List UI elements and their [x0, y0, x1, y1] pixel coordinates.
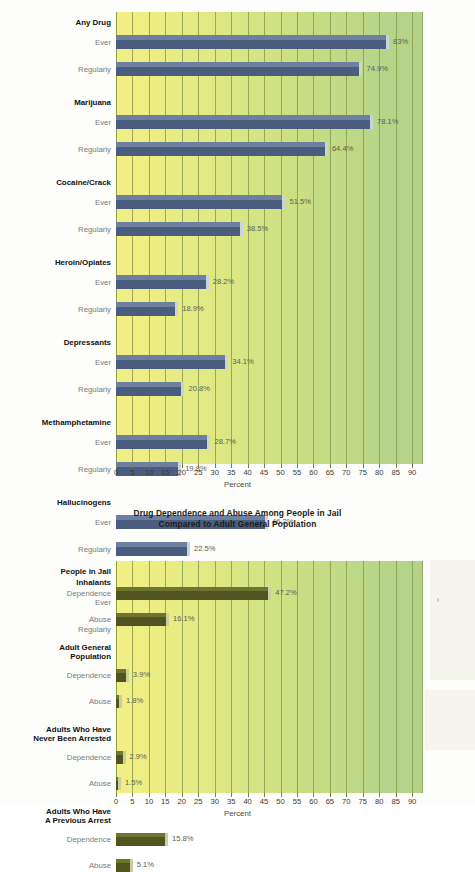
- data-bar: [116, 695, 122, 708]
- bar-value-label: 2.9%: [130, 752, 147, 761]
- bar-tip: [181, 382, 184, 396]
- chart-gridline: [215, 12, 216, 464]
- bar-value-label: 3.9%: [133, 670, 150, 679]
- x-axis-title: Percent: [0, 480, 475, 489]
- axis-tick-label: 35: [227, 797, 235, 806]
- group-label-line: Depressants: [64, 338, 111, 347]
- data-bar: [116, 222, 243, 236]
- bar-value-label: 28.7%: [214, 437, 236, 446]
- chart-gridline: [231, 12, 232, 464]
- axis-tick-label: 0: [114, 797, 118, 806]
- chart-gridline: [330, 561, 331, 793]
- drug-use-chart: Any DrugEver83%Regularly74.9%MarijuanaEv…: [0, 0, 475, 500]
- bar-highlight: [116, 613, 169, 618]
- data-bar: [116, 275, 209, 289]
- series-label: Ever: [95, 198, 111, 207]
- series-label: Regularly: [78, 225, 111, 234]
- bar-highlight: [116, 195, 285, 200]
- axis-tick-label: 70: [342, 797, 350, 806]
- group-label: People in Jail: [61, 567, 111, 576]
- axis-tick-label: 5: [130, 797, 134, 806]
- chart2-title-line1: Drug Dependence and Abuse Among People i…: [0, 508, 475, 519]
- bar-tip: [359, 62, 362, 76]
- chart-gridline: [379, 12, 380, 464]
- chart-gridline: [313, 561, 314, 793]
- bar-value-label: 18.9%: [182, 304, 204, 313]
- bar-tip: [118, 777, 121, 790]
- chart-gridline: [182, 12, 183, 464]
- chart-gridline: [313, 12, 314, 464]
- group-label-line: People in Jail: [61, 567, 111, 576]
- series-label: Regularly: [78, 465, 111, 474]
- bar-value-label: 16.1%: [173, 614, 195, 623]
- chart2-title: Drug Dependence and Abuse Among People i…: [0, 500, 475, 529]
- bar-value-label: 20.8%: [188, 384, 210, 393]
- bar-value-label: 78.1%: [377, 117, 399, 126]
- bar-tip: [386, 35, 389, 49]
- bar-tip: [282, 195, 285, 209]
- axis-tick-label: 20: [178, 797, 186, 806]
- chart-gridline: [297, 12, 298, 464]
- axis-tick-label: 40: [243, 797, 251, 806]
- axis-tick-label: 45: [260, 468, 268, 477]
- series-label: Abuse: [89, 697, 111, 706]
- axis-tick-label: 50: [276, 468, 284, 477]
- data-bar: [116, 833, 168, 846]
- series-label: Regularly: [78, 385, 111, 394]
- chart-gridline: [346, 561, 347, 793]
- bar-value-label: 47.2%: [275, 588, 297, 597]
- axis-tick-label: 10: [145, 797, 153, 806]
- axis-tick-label: 85: [391, 797, 399, 806]
- series-label: Ever: [95, 118, 111, 127]
- data-bar: [116, 355, 228, 369]
- bar-tip: [119, 695, 122, 708]
- axis-tick-label: 85: [391, 468, 399, 477]
- axis-tick-label: 60: [309, 797, 317, 806]
- axis-tick-label: 60: [309, 468, 317, 477]
- bar-tip: [123, 751, 126, 764]
- bar-highlight: [116, 35, 389, 40]
- axis-tick-label: 35: [227, 468, 235, 477]
- bar-value-label: 34.1%: [232, 357, 254, 366]
- group-label-line: Cocaine/Crack: [56, 178, 111, 187]
- bar-tip: [268, 587, 271, 600]
- bar-highlight: [116, 302, 178, 307]
- chart-gridline: [330, 12, 331, 464]
- series-label: Abuse: [89, 861, 111, 870]
- chart-gridline: [412, 12, 413, 464]
- series-label: Dependence: [67, 753, 111, 762]
- group-label: Methamphetamine: [42, 418, 111, 427]
- bar-highlight: [116, 275, 209, 280]
- axis-tick-label: 65: [326, 797, 334, 806]
- group-label: Heroin/Opiates: [55, 258, 111, 267]
- series-label: Abuse: [89, 779, 111, 788]
- bar-value-label: 51.5%: [289, 197, 311, 206]
- chart-gridline: [297, 561, 298, 793]
- data-bar: [116, 62, 362, 76]
- axis-tick-label: 80: [375, 468, 383, 477]
- bar-tip: [175, 302, 178, 316]
- data-bar: [116, 435, 210, 449]
- group-label-line: Population: [59, 653, 111, 662]
- axis-tick-label: 40: [243, 468, 251, 477]
- axis-tick-label: 20: [178, 468, 186, 477]
- data-bar: [116, 859, 133, 872]
- x-axis-title: Percent: [0, 809, 475, 818]
- group-label: Marijuana: [74, 98, 111, 107]
- bar-tip: [166, 613, 169, 626]
- chart-gridline: [346, 12, 347, 464]
- series-label: Dependence: [67, 671, 111, 680]
- series-label: Abuse: [89, 615, 111, 624]
- axis-tick-label: 70: [342, 468, 350, 477]
- chart-gridline: [379, 561, 380, 793]
- chart-gridline: [248, 12, 249, 464]
- series-label: Ever: [95, 38, 111, 47]
- axis-tick-label: 0: [114, 468, 118, 477]
- data-bar: [116, 382, 184, 396]
- bar-value-label: 1.8%: [126, 696, 143, 705]
- axis-tick-label: 15: [161, 468, 169, 477]
- axis-tick-label: 15: [161, 797, 169, 806]
- series-label: Ever: [95, 438, 111, 447]
- bar-value-label: 83%: [393, 37, 408, 46]
- series-label: Ever: [95, 278, 111, 287]
